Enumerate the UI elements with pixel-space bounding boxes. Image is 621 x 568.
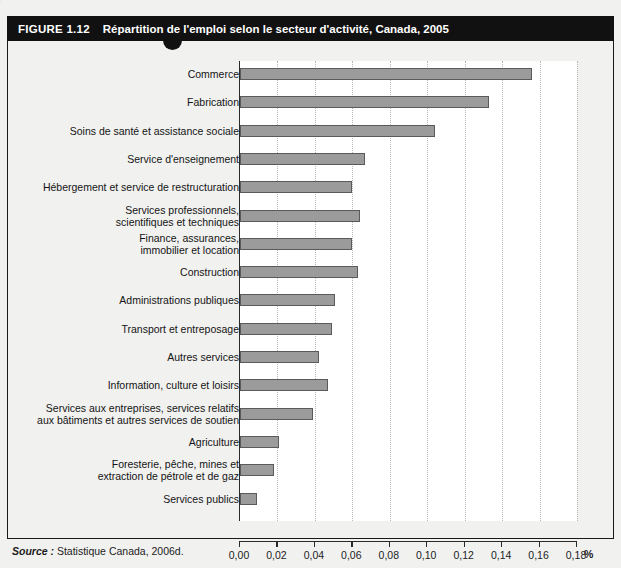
category-label: Foresterie, pêche, mines et extraction d…	[98, 458, 239, 482]
bar	[240, 323, 332, 335]
category-label: Services aux entreprises, services relat…	[37, 402, 239, 426]
category-label: Service d'enseignement	[127, 153, 239, 165]
x-axis-line	[239, 541, 577, 542]
bar	[240, 379, 328, 391]
bar	[240, 464, 274, 476]
x-axis-tick	[239, 541, 240, 547]
x-axis-tick-label: 0,08	[379, 549, 399, 561]
x-axis-tick	[389, 541, 390, 547]
x-axis-tick-label: 0,16	[528, 549, 548, 561]
category-label: Soins de santé et assistance sociale	[70, 125, 239, 137]
category-label: Construction	[180, 266, 239, 278]
figure-number: FIGURE 1.12	[18, 23, 90, 35]
bar	[240, 266, 358, 278]
x-axis-tick	[426, 541, 427, 547]
x-axis-tick-label: 0,04	[304, 549, 324, 561]
x-axis-tick	[464, 541, 465, 547]
category-label: Agriculture	[189, 436, 239, 448]
source-value: Statistique Canada, 2006d.	[54, 545, 184, 557]
bar	[240, 493, 257, 505]
x-axis-tick-label: 0,00	[229, 549, 249, 561]
bar	[240, 68, 532, 80]
chart-body: 0,000,020,040,060,080,100,120,140,160,18…	[8, 42, 613, 532]
category-label: Fabrication	[187, 96, 239, 108]
gridline	[502, 61, 504, 521]
category-label: Services publics	[163, 493, 239, 505]
category-label: Commerce	[188, 68, 239, 80]
bar	[240, 351, 319, 363]
category-label: Finance, assurances, immobilier et locat…	[139, 232, 239, 256]
x-axis-tick-label: 0,12	[453, 549, 473, 561]
bar	[240, 153, 365, 165]
x-axis-tick	[539, 541, 540, 547]
category-label: Hébergement et service de restructuratio…	[43, 181, 239, 193]
x-axis-unit-label: %	[584, 548, 593, 560]
gridline	[540, 61, 542, 521]
figure-header-bar: FIGURE 1.12 Répartition de l'emploi selo…	[7, 16, 614, 41]
category-label: Autres services	[167, 351, 239, 363]
bar	[240, 408, 313, 420]
bar	[240, 294, 335, 306]
figure-page: FIGURE 1.12 Répartition de l'emploi selo…	[0, 0, 621, 568]
category-label: Transport et entreposage	[121, 323, 239, 335]
bar	[240, 125, 435, 137]
bar	[240, 238, 352, 250]
x-axis-tick	[351, 541, 352, 547]
x-axis-tick	[314, 541, 315, 547]
x-axis-tick	[276, 541, 277, 547]
category-label: Information, culture et loisirs	[108, 379, 239, 391]
source-label: Source :	[12, 545, 54, 557]
x-axis-tick	[576, 541, 577, 547]
x-axis-tick-label: 0,10	[416, 549, 436, 561]
bar	[240, 181, 352, 193]
x-axis-tick-label: 0,02	[266, 549, 286, 561]
x-axis-tick	[501, 541, 502, 547]
gridline	[465, 61, 467, 521]
bar	[240, 96, 489, 108]
bar	[240, 436, 279, 448]
x-axis-tick-label: 0,14	[491, 549, 511, 561]
plot-inner	[240, 61, 577, 521]
source-note: Source : Statistique Canada, 2006d.	[12, 545, 184, 557]
figure-title: Répartition de l'emploi selon le secteur…	[103, 23, 449, 35]
category-label: Administrations publiques	[119, 294, 239, 306]
bar	[240, 210, 360, 222]
x-axis-tick-label: 0,06	[341, 549, 361, 561]
gridline	[577, 61, 579, 521]
plot-area	[239, 61, 577, 521]
category-label: Services professionnels, scientifiques e…	[116, 204, 239, 228]
